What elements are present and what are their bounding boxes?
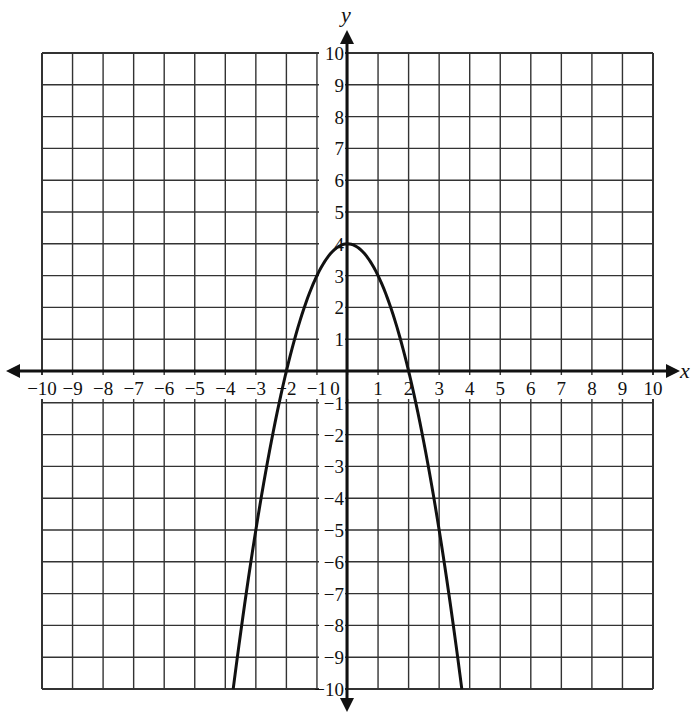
y-tick-label: −3 [324,456,344,477]
x-tick-label: 1 [373,378,383,399]
y-tick-label: −7 [324,584,344,605]
y-axis-label: y [339,2,351,27]
x-tick-label: 4 [465,378,475,399]
y-axis-up-arrow-icon [340,30,354,44]
y-axis-down-arrow-icon [340,698,354,712]
x-tick-label: −9 [62,378,82,399]
y-tick-label: 9 [335,75,345,96]
x-axis-label: x [679,358,690,383]
y-tick-label: −8 [324,615,344,636]
coordinate-plane: −10−9−8−7−6−5−4−3−2−1012345678910−10−9−8… [0,0,699,720]
y-tick-label: −1 [324,393,344,414]
x-tick-label: −4 [215,378,236,399]
x-tick-label: 10 [644,378,663,399]
x-tick-label: 6 [526,378,536,399]
y-tick-label: 8 [335,107,345,128]
x-tick-label: 9 [618,378,628,399]
y-tick-label: −10 [314,679,344,700]
y-tick-label: −2 [324,425,344,446]
y-tick-label: −5 [324,520,344,541]
y-tick-label: −6 [324,552,344,573]
y-tick-label: 1 [335,329,345,350]
y-tick-label: 6 [335,170,345,191]
x-tick-label: 7 [557,378,567,399]
x-tick-label: −8 [93,378,113,399]
x-tick-label: −3 [246,378,266,399]
y-tick-label: 3 [335,266,345,287]
y-tick-label: −4 [324,488,345,509]
x-tick-label: 3 [434,378,444,399]
x-tick-label: −10 [27,378,57,399]
x-tick-label: 8 [587,378,597,399]
y-tick-label: 2 [335,297,345,318]
y-tick-label: 10 [325,43,344,64]
x-tick-label: −5 [185,378,205,399]
x-tick-label: 5 [496,378,506,399]
y-tick-label: −9 [324,647,344,668]
x-tick-label: −6 [154,378,174,399]
y-tick-label: 7 [335,138,345,159]
x-axis-left-arrow-icon [6,364,20,378]
y-tick-label: 5 [335,202,345,223]
x-tick-label: −7 [124,378,144,399]
